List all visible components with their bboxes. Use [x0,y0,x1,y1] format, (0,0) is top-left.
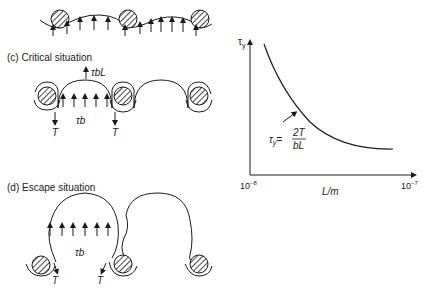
tension-label-right: T [112,127,119,138]
yield-stress-graph: τy τy= 2T bL 10−8 10−7 L/m [238,36,419,197]
panel-d-label: (d) Escape situation [7,182,95,193]
obstacle-particle [51,10,69,28]
svg-text:bL: bL [293,140,304,151]
obstacle-particle [114,87,132,105]
obstacle-particle [190,255,208,273]
obstacle-particle [38,87,56,105]
y-axis-label: τy [238,36,246,50]
stress-arrows [50,225,108,236]
stress-label-taub: τb [75,247,85,258]
tension-arrow-right [102,263,106,272]
figure-canvas: (c) Critical situation τbL τb T T (d) Es… [0,0,428,299]
svg-text:τy=: τy= [269,134,282,147]
force-label-taubL: τbL [91,67,106,78]
panel-c-label: (c) Critical situation [7,52,92,63]
obstacle-particle [32,256,50,274]
x-tick-1e-8: 10−8 [240,180,258,191]
dislocation-loop [122,193,196,264]
obstacle-particle [114,255,132,273]
obstacle-particle [119,10,137,28]
stress-label-taub: τb [76,115,86,126]
obstacle-particle [190,87,208,105]
stress-arrows [63,96,107,107]
svg-text:2T: 2T [292,127,306,138]
x-axis-label: L/m [322,186,339,197]
panel-slight-bowing [40,10,212,36]
tension-label-left: T [52,275,59,286]
equation-label: τy= 2T bL [269,127,306,151]
curve-tau-y [264,44,393,149]
obstacle-particle [191,10,209,28]
panel-escape-situation: (d) Escape situation τb T T [7,182,212,286]
annotation-arrow [283,113,295,122]
x-tick-1e-7: 10−7 [401,180,419,191]
tension-label-left: T [52,127,59,138]
panel-critical-situation: (c) Critical situation τbL τb T T [7,52,212,138]
tension-label-right: T [97,275,104,286]
